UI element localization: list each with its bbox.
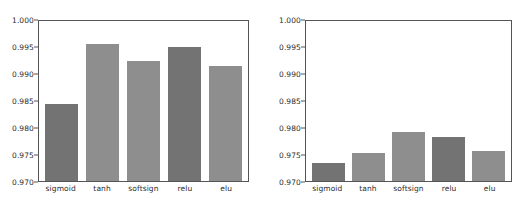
bar-tanh <box>86 44 120 181</box>
figure-container: accuracy 1.0000.9950.9900.9850.9800.9750… <box>0 0 526 202</box>
x-axis-left: sigmoidtanhsoftsignreluelu <box>38 184 249 193</box>
bar-tanh <box>352 153 385 181</box>
y-tick-mark <box>301 74 305 75</box>
x-tick-label-elu: elu <box>473 184 506 193</box>
y-tick-mark <box>34 20 38 21</box>
y-tick-mark <box>301 155 305 156</box>
y-tick-mark <box>301 47 305 48</box>
bar-softsign <box>392 132 425 181</box>
x-tick-label-relu: relu <box>432 184 465 193</box>
y-tick-mark <box>34 74 38 75</box>
x-tick-label-softsign: softsign <box>127 184 161 193</box>
bar-group-right <box>306 21 511 181</box>
bar-sigmoid <box>312 163 345 181</box>
x-tick-label-softsign: softsign <box>392 184 425 193</box>
y-tick-mark <box>301 182 305 183</box>
bar-elu <box>472 151 505 181</box>
x-tick-label-tanh: tanh <box>85 184 119 193</box>
bar-relu <box>432 137 465 181</box>
bar-group-left <box>39 21 248 181</box>
y-tick-mark <box>34 101 38 102</box>
y-tick-mark <box>301 101 305 102</box>
y-tick-mark <box>34 155 38 156</box>
x-tick-label-relu: relu <box>168 184 202 193</box>
y-tick-mark <box>301 128 305 129</box>
chart-panel-left: 1.0000.9950.9900.9850.9800.9750.970 sigm… <box>0 0 263 202</box>
bar-sigmoid <box>45 104 79 181</box>
bar-elu <box>209 66 243 181</box>
x-tick-label-elu: elu <box>209 184 243 193</box>
bar-softsign <box>127 61 161 181</box>
plot-area-left <box>38 20 249 182</box>
x-tick-label-sigmoid: sigmoid <box>44 184 78 193</box>
chart-panel-right: 1.0000.9950.9900.9850.9800.9750.970 sigm… <box>263 0 526 202</box>
y-tick-mark <box>34 47 38 48</box>
bar-relu <box>168 47 202 181</box>
x-tick-label-sigmoid: sigmoid <box>311 184 344 193</box>
y-tick-mark <box>34 128 38 129</box>
plot-area-right <box>305 20 512 182</box>
x-tick-label-tanh: tanh <box>351 184 384 193</box>
y-tick-mark <box>34 182 38 183</box>
x-axis-right: sigmoidtanhsoftsignreluelu <box>305 184 512 193</box>
y-tick-mark <box>301 20 305 21</box>
